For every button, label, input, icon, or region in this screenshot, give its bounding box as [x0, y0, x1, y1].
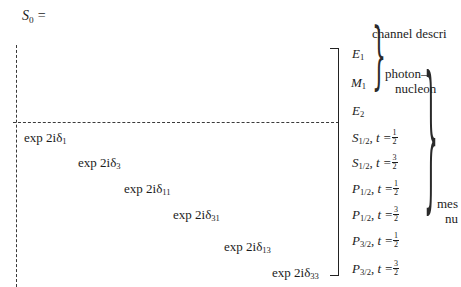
channel-row-subscript: 1: [362, 81, 366, 91]
channel-row-subscript: 1/2: [359, 161, 370, 171]
channel-row-t-fraction: 32: [392, 154, 398, 171]
equation-lhs-subscript: 0: [29, 15, 34, 25]
channel-row-t-fraction: 32: [393, 206, 399, 223]
equation-lhs: S0=: [22, 8, 46, 25]
matrix-diagonal-entry: exp 2iδ31: [173, 207, 220, 223]
channel-row-t-fraction: 12: [393, 180, 399, 197]
channel-row-subscript: 1/2: [359, 136, 370, 146]
channel-row-symbol: P: [352, 261, 360, 276]
group-label-line2: nu: [437, 211, 458, 226]
channel-row-symbol: P: [352, 233, 360, 248]
channel-row-meson-nucleon: P3/2, t =12: [352, 232, 399, 249]
channel-row-subscript: 3/2: [360, 239, 371, 249]
channel-row-t-label: t =: [377, 261, 393, 276]
exp-entry-subscript: 13: [262, 245, 271, 255]
channel-row-t-fraction: 32: [393, 260, 399, 277]
channel-row-subscript: 1: [360, 52, 364, 62]
channel-row-meson-nucleon: P1/2, t =12: [352, 180, 399, 197]
channel-row-t-label: t =: [377, 181, 393, 196]
channel-row-t-label: t =: [377, 207, 393, 222]
brace-photon-nucleon: }: [372, 20, 386, 94]
channel-row-subscript: 2: [360, 109, 364, 119]
channel-row-t-label: t =: [376, 155, 392, 170]
channel-row-meson-nucleon: P3/2, t =32: [352, 260, 399, 277]
channel-row-meson-nucleon: P1/2, t =32: [352, 206, 399, 223]
channel-row-t-label: t =: [376, 130, 392, 145]
channel-row-photon-nucleon: E2: [352, 103, 364, 119]
channel-row-symbol: M: [351, 75, 362, 90]
exp-entry-subscript: 33: [310, 271, 319, 281]
equation-lhs-symbol: S: [22, 8, 29, 23]
matrix-diagonal-entry: exp 2iδ11: [124, 181, 171, 197]
channel-row-subscript: 3/2: [360, 267, 371, 277]
figure-canvas: S0= exp 2iδ1 exp 2iδ3 exp 2iδ11 exp 2iδ3…: [0, 0, 461, 287]
channel-row-subscript: 1/2: [360, 187, 371, 197]
exp-entry-prefix: exp 2iδ: [124, 181, 162, 196]
channel-row-symbol: P: [352, 181, 360, 196]
channel-row-meson-nucleon: S1/2, t =32: [352, 154, 398, 171]
exp-entry-prefix: exp 2iδ: [78, 155, 116, 170]
group-label-line1: photon–: [385, 66, 428, 81]
channel-row-symbol: P: [352, 207, 360, 222]
matrix-diagonal-entry: exp 2iδ3: [78, 155, 121, 171]
exp-entry-prefix: exp 2iδ: [272, 265, 310, 280]
matrix-partition-dashed-rule: [13, 122, 339, 123]
exp-entry-subscript: 3: [116, 161, 120, 171]
matrix-diagonal-entry: exp 2iδ13: [224, 239, 271, 255]
channel-row-symbol: E: [352, 103, 360, 118]
matrix-left-dashed-rule: [16, 45, 17, 287]
group-label-line1: mes: [437, 196, 458, 211]
channel-row-t-label: t =: [377, 233, 393, 248]
exp-entry-subscript: 11: [162, 187, 170, 197]
exp-entry-prefix: exp 2iδ: [224, 239, 262, 254]
brace-meson-nucleon: }: [424, 61, 438, 219]
matrix-diagonal-entry: exp 2iδ33: [272, 265, 319, 281]
channel-row-t-fraction: 12: [392, 129, 398, 146]
exp-entry-prefix: exp 2iδ: [24, 130, 62, 145]
exp-entry-prefix: exp 2iδ: [173, 207, 211, 222]
channel-row-t-fraction: 12: [393, 232, 399, 249]
matrix-diagonal-entry: exp 2iδ1: [24, 130, 67, 146]
channel-row-photon-nucleon: M1: [351, 75, 366, 91]
channel-row-meson-nucleon: S1/2, t =12: [352, 129, 398, 146]
exp-entry-subscript: 31: [211, 213, 220, 223]
exp-entry-subscript: 1: [62, 136, 66, 146]
channel-row-photon-nucleon: E1: [352, 46, 364, 62]
channel-row-symbol: E: [352, 46, 360, 61]
equals-sign: =: [38, 8, 46, 23]
group-label-meson-nucleon: mes nu: [437, 196, 458, 227]
channel-row-subscript: 1/2: [360, 213, 371, 223]
matrix-right-bracket: [330, 48, 339, 276]
